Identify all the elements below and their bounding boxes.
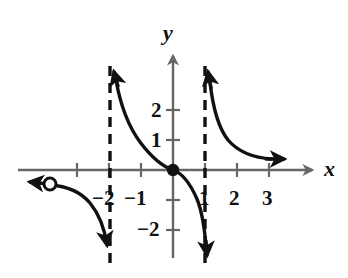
curve-middle-branch-up-arrow bbox=[114, 72, 118, 86]
curve-right-branch bbox=[210, 82, 272, 159]
x-tick-label--1: −1 bbox=[124, 188, 146, 209]
coordinate-plane bbox=[0, 0, 348, 278]
filled-point-origin bbox=[167, 164, 179, 176]
graph-figure: −2 −1 1 2 3 2 1 −2 y x bbox=[0, 0, 348, 278]
y-tick-label-1: 1 bbox=[151, 130, 162, 151]
open-point-hole bbox=[44, 178, 56, 190]
x-tick-label--2: −2 bbox=[92, 188, 114, 209]
x-tick-label-1: 1 bbox=[199, 188, 210, 209]
x-tick-label-3: 3 bbox=[262, 188, 273, 209]
y-axis-label: y bbox=[163, 22, 173, 44]
curve-middle-branch-down-arrow bbox=[206, 241, 207, 255]
x-tick-label-2: 2 bbox=[229, 188, 240, 209]
y-tick-label--2: −2 bbox=[137, 219, 159, 240]
x-axis-label: x bbox=[324, 158, 335, 180]
y-tick-label-2: 2 bbox=[151, 100, 162, 121]
curve-right-branch-up-arrow bbox=[208, 72, 211, 88]
